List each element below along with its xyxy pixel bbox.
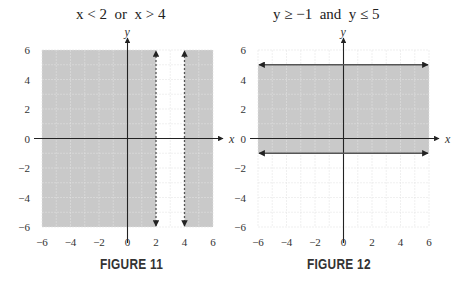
x-tick-label: −2	[309, 236, 321, 248]
x-tick-label: −4	[281, 236, 293, 248]
y-tick-label: 4	[241, 74, 247, 86]
y-tick-label: −4	[18, 192, 30, 204]
y-tick-label: 4	[25, 74, 31, 86]
x-tick-label: 4	[182, 236, 188, 248]
y-tick-label: 0	[25, 133, 31, 145]
x-tick-label: 4	[398, 236, 404, 248]
y-tick-label: 0	[241, 133, 247, 145]
x-tick-label: 0	[341, 236, 347, 248]
x-tick-label: 6	[210, 236, 216, 248]
x-axis-label: x	[228, 132, 235, 146]
x-tick-label: −2	[93, 236, 105, 248]
y-tick-label: 2	[241, 103, 247, 115]
y-axis-label: y	[340, 25, 347, 39]
chart-1: xy−6−4−202466420−2−4−6	[18, 25, 235, 248]
y-tick-label: 6	[25, 44, 31, 56]
x-tick-label: −4	[65, 236, 77, 248]
x-tick-label: 2	[153, 236, 159, 248]
chart-2: xy−6−4−202466420−2−4−6	[234, 25, 451, 248]
y-tick-label: −4	[234, 192, 246, 204]
y-tick-label: −6	[18, 221, 30, 233]
y-tick-label: −2	[18, 162, 30, 174]
inequality-graphs: xy−6−4−202466420−2−4−6xy−6−4−202466420−2…	[0, 0, 458, 287]
y-tick-label: −6	[234, 221, 246, 233]
x-axis-label: x	[444, 132, 451, 146]
x-tick-label: 2	[369, 236, 375, 248]
figure-12-caption: FIGURE 12	[307, 256, 371, 272]
y-axis-label: y	[124, 25, 131, 39]
x-tick-label: −6	[252, 236, 264, 248]
figure-11-caption: FIGURE 11	[100, 256, 163, 272]
x-tick-label: −6	[36, 236, 48, 248]
y-tick-label: 6	[241, 44, 247, 56]
y-tick-label: −2	[234, 162, 246, 174]
y-tick-label: 2	[25, 103, 31, 115]
x-tick-label: 0	[125, 236, 131, 248]
x-tick-label: 6	[426, 236, 432, 248]
